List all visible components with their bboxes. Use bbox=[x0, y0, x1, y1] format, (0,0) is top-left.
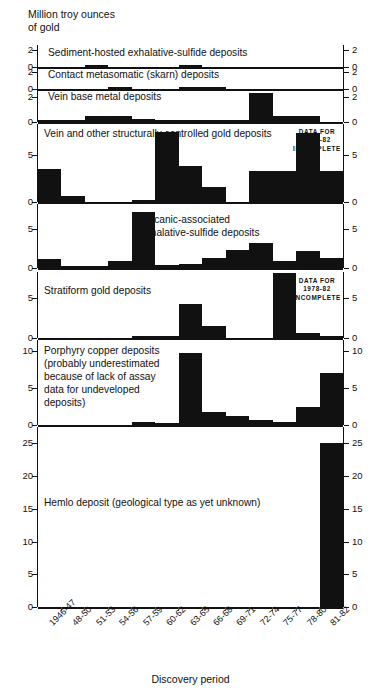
y-tick-mark bbox=[344, 72, 349, 73]
y-tick-label: 20 bbox=[9, 471, 33, 481]
axis-spine-right bbox=[343, 124, 344, 202]
x-tick-label: 81-82 bbox=[320, 613, 343, 668]
bar bbox=[179, 304, 202, 338]
y-tick-mark bbox=[32, 425, 37, 426]
x-axis: 1946-4748-5051-5354-5657-5960-6263-6566-… bbox=[0, 607, 381, 692]
y-tick-label: 0 bbox=[9, 117, 33, 127]
x-tick-label: 48-50 bbox=[61, 613, 84, 668]
bar bbox=[273, 261, 296, 268]
y-tick-label: 2 bbox=[352, 67, 357, 77]
axis-spine-right bbox=[343, 89, 344, 122]
y-tick-label: 2 bbox=[9, 92, 33, 102]
bar bbox=[179, 353, 202, 425]
y-tick-label: 0 bbox=[352, 117, 357, 127]
axis-spine-right bbox=[343, 67, 344, 89]
y-tick-label: 5 bbox=[9, 293, 33, 303]
bar bbox=[202, 258, 225, 268]
y-tick-mark bbox=[344, 338, 349, 339]
axis-spine-right bbox=[343, 340, 344, 425]
y-tick-mark bbox=[32, 542, 37, 543]
bar bbox=[249, 93, 272, 122]
y-tick-mark bbox=[344, 542, 349, 543]
bar bbox=[296, 407, 319, 425]
bar bbox=[320, 258, 343, 268]
x-tick-label: 69-71 bbox=[226, 613, 249, 668]
panel-label-volcanic-associated: Volcanic-associated exhalative-sulfide d… bbox=[140, 213, 260, 239]
y-tick-mark bbox=[344, 122, 349, 123]
bar bbox=[249, 171, 272, 202]
y-tick-mark bbox=[344, 97, 349, 98]
y-tick-label: 5 bbox=[9, 383, 33, 393]
y-tick-label: 5 bbox=[352, 224, 357, 234]
y-tick-mark bbox=[344, 155, 349, 156]
y-tick-label: 5 bbox=[9, 150, 33, 160]
y-tick-mark bbox=[32, 97, 37, 98]
y-tick-label: 0 bbox=[9, 420, 33, 430]
y-tick-mark bbox=[344, 351, 349, 352]
y-tick-mark bbox=[32, 155, 37, 156]
y-tick-label: 2 bbox=[9, 45, 33, 55]
axis-spine-right bbox=[343, 204, 344, 268]
y-tick-mark bbox=[344, 425, 349, 426]
y-tick-mark bbox=[344, 89, 349, 90]
x-tick-label: 60-62 bbox=[155, 613, 178, 668]
y-tick-mark bbox=[344, 50, 349, 51]
bar bbox=[226, 416, 249, 425]
y-tick-label: 10 bbox=[9, 537, 33, 547]
bar bbox=[226, 250, 249, 268]
panel-label-sediment-hosted: Sediment-hosted exhalative-sulfide depos… bbox=[48, 46, 247, 59]
bar bbox=[249, 243, 272, 268]
y-tick-label: 25 bbox=[352, 438, 363, 448]
incomplete-data-note: DATA FOR 1978-82 INCOMPLETE bbox=[291, 128, 343, 153]
y-tick-label: 5 bbox=[9, 224, 33, 234]
x-tick-label: 78-80 bbox=[296, 613, 319, 668]
y-tick-mark bbox=[32, 50, 37, 51]
y-tick-mark bbox=[32, 229, 37, 230]
x-axis-title: Discovery period bbox=[0, 673, 381, 685]
bar bbox=[296, 251, 319, 268]
panel-label-vein-structural-gold: Vein and other structurally controlled g… bbox=[44, 127, 272, 140]
y-tick-label: 2 bbox=[9, 67, 33, 77]
y-tick-label: 25 bbox=[9, 438, 33, 448]
incomplete-data-note: DATA FOR 1978-82 INCOMPLETE bbox=[291, 277, 343, 302]
y-tick-label: 10 bbox=[9, 346, 33, 356]
bar bbox=[202, 326, 225, 338]
axis-spine-right bbox=[343, 45, 344, 67]
bar bbox=[38, 259, 61, 268]
y-tick-mark bbox=[344, 574, 349, 575]
bar bbox=[320, 373, 343, 425]
y-tick-mark bbox=[344, 268, 349, 269]
y-tick-mark bbox=[32, 509, 37, 510]
y-tick-label: 15 bbox=[352, 504, 363, 514]
y-tick-label: 5 bbox=[352, 569, 357, 579]
panel-label-vein-base-metal: Vein base metal deposits bbox=[48, 90, 161, 103]
axis-spine-right bbox=[343, 272, 344, 338]
x-tick-label: 57-59 bbox=[132, 613, 155, 668]
y-tick-label: 5 bbox=[9, 569, 33, 579]
axis-baseline bbox=[38, 268, 343, 270]
x-tick-labels: 1946-4748-5051-5354-5657-5960-6263-6566-… bbox=[38, 613, 343, 668]
y-tick-mark bbox=[32, 298, 37, 299]
y-tick-mark bbox=[344, 202, 349, 203]
y-tick-label: 0 bbox=[9, 263, 33, 273]
y-tick-label: 0 bbox=[352, 420, 357, 430]
y-tick-label: 15 bbox=[9, 504, 33, 514]
bar bbox=[202, 412, 225, 425]
panel-label-stratiform-gold: Stratiform gold deposits bbox=[44, 284, 151, 297]
y-tick-mark bbox=[344, 476, 349, 477]
bar bbox=[320, 171, 343, 202]
y-tick-mark bbox=[344, 388, 349, 389]
y-tick-label: 10 bbox=[352, 537, 363, 547]
axis-spine-right bbox=[343, 427, 344, 607]
bar bbox=[320, 443, 343, 607]
panel-label-hemlo: Hemlo deposit (geological type as yet un… bbox=[44, 496, 260, 509]
y-tick-label: 5 bbox=[352, 150, 357, 160]
y-tick-label: 0 bbox=[9, 197, 33, 207]
bar bbox=[38, 169, 61, 202]
y-tick-label: 0 bbox=[352, 263, 357, 273]
y-tick-mark bbox=[32, 268, 37, 269]
x-tick-label: 54-56 bbox=[108, 613, 131, 668]
y-tick-mark bbox=[344, 67, 349, 68]
bar bbox=[179, 166, 202, 202]
x-tick-label: 63-65 bbox=[179, 613, 202, 668]
